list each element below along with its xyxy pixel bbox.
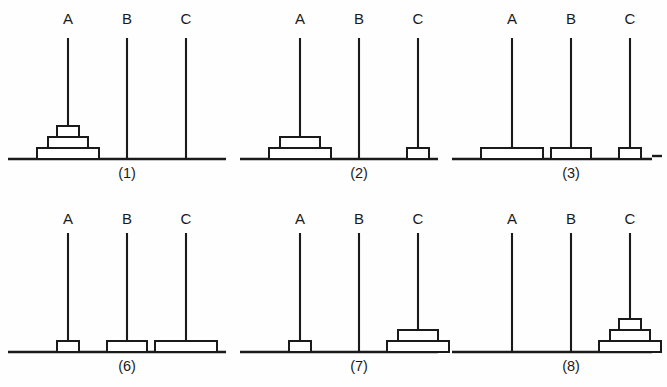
peg-label-A: A (295, 210, 305, 227)
peg-label-C: C (625, 10, 636, 27)
peg-label-C: C (181, 210, 192, 227)
peg-label-B: B (566, 10, 576, 27)
peg-label-C: C (181, 10, 192, 27)
disk-large-on-peg-C (155, 341, 217, 352)
disk-small-on-peg-A (57, 126, 79, 137)
hanoi-panel-8: ABC(8) (452, 210, 661, 374)
hanoi-panel-6: ABC(6) (8, 210, 226, 374)
peg-label-A: A (295, 10, 305, 27)
peg-label-B: B (566, 210, 576, 227)
panel-caption: (7) (350, 358, 368, 374)
panel-caption: (1) (118, 165, 136, 181)
disk-medium-on-peg-A (280, 137, 320, 148)
panel-caption: (3) (562, 165, 580, 181)
disk-large-on-peg-A (269, 148, 331, 159)
hanoi-diagram: ABC(1)ABC(2)ABC(3)ABC(6)ABC(7)ABC(8) (0, 0, 667, 387)
hanoi-panel-7: ABC(7) (240, 210, 449, 374)
peg-label-A: A (63, 10, 73, 27)
peg-label-B: B (122, 210, 132, 227)
peg-label-A: A (63, 210, 73, 227)
peg-label-C: C (413, 10, 424, 27)
disk-medium-on-peg-C (610, 330, 650, 341)
hanoi-panel-1: ABC(1) (8, 10, 226, 181)
disk-small-on-peg-C (619, 319, 641, 330)
peg-label-B: B (354, 210, 364, 227)
peg-label-C: C (625, 210, 636, 227)
disk-medium-on-peg-B (107, 341, 147, 352)
peg-label-B: B (354, 10, 364, 27)
peg-label-A: A (507, 210, 517, 227)
peg-label-C: C (413, 210, 424, 227)
disk-medium-on-peg-C (398, 330, 438, 341)
disk-large-on-peg-A (37, 148, 99, 159)
disk-small-on-peg-C (619, 148, 641, 159)
disk-medium-on-peg-B (551, 148, 591, 159)
disk-large-on-peg-A (481, 148, 543, 159)
disk-small-on-peg-C (407, 148, 429, 159)
hanoi-panel-2: ABC(2) (240, 10, 438, 181)
hanoi-figure-container: ABC(1)ABC(2)ABC(3)ABC(6)ABC(7)ABC(8) (0, 0, 667, 387)
disk-large-on-peg-C (387, 341, 449, 352)
peg-label-B: B (122, 10, 132, 27)
hanoi-panel-3: ABC(3) (452, 10, 652, 181)
panel-caption: (6) (118, 358, 136, 374)
disk-small-on-peg-A (57, 341, 79, 352)
panel-caption: (2) (350, 165, 368, 181)
disk-small-on-peg-A (289, 341, 311, 352)
disk-medium-on-peg-A (48, 137, 88, 148)
disk-large-on-peg-C (599, 341, 661, 352)
panels-layer: ABC(1)ABC(2)ABC(3)ABC(6)ABC(7)ABC(8) (8, 10, 661, 374)
peg-label-A: A (507, 10, 517, 27)
panel-caption: (8) (562, 358, 580, 374)
